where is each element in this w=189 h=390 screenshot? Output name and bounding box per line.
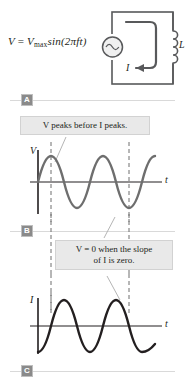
divider-rule-a — [10, 100, 175, 101]
circuit-diagram — [0, 0, 189, 95]
callout-v-peaks-text: V peaks before I peaks. — [43, 120, 128, 130]
inductor-label: L — [179, 39, 185, 50]
marker-badge-a: A — [21, 94, 33, 106]
callout-v-zero-line1: V = 0 when the slope — [76, 244, 153, 254]
callout-v-zero-line2: of I is zero. — [94, 255, 135, 265]
voltage-x-axis-label: t — [165, 174, 168, 185]
current-label: I — [126, 62, 129, 73]
voltage-plot — [0, 142, 189, 222]
divider-rule-c — [10, 371, 175, 372]
callout-v-zero: V = 0 when the slope of I is zero. — [55, 240, 173, 270]
current-plot — [0, 292, 189, 372]
voltage-y-axis-label: V — [30, 145, 36, 156]
current-direction-path — [126, 22, 156, 68]
current-x-axis-label: t — [165, 318, 168, 329]
leader-line-callout-b-up — [104, 217, 115, 238]
figure-root: V = Vmaxsin(2πft) L I A V peaks before I… — [0, 0, 189, 390]
current-arrowhead-icon — [136, 64, 144, 72]
marker-badge-c: C — [21, 365, 33, 377]
current-y-axis-label: I — [30, 294, 33, 305]
